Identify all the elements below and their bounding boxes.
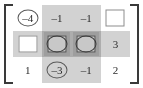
matrix-value-r1c4: 5 bbox=[111, 12, 121, 25]
matrix-cell-r1c4: 5 bbox=[101, 5, 130, 31]
matrix-cell-r2c1: 3 bbox=[13, 31, 42, 57]
matrix-cell-r2c4: 3 bbox=[101, 31, 130, 57]
matrix-cell-r1c1: –4 bbox=[13, 5, 42, 31]
matrix-value-r2c4: 3 bbox=[111, 38, 121, 51]
matrix-value-r1c1: –4 bbox=[20, 12, 35, 25]
matrix-value-r1c2: –1 bbox=[49, 12, 64, 25]
matrix-value-r2c1: 3 bbox=[23, 38, 33, 51]
matrix-value-r3c1: 1 bbox=[23, 64, 33, 77]
matrix-cell-r3c2: –3 bbox=[42, 57, 71, 83]
matrix-value-r3c2: –3 bbox=[49, 64, 64, 77]
matrix-left-bracket bbox=[4, 4, 13, 84]
matrix-cell-r2c3: 0 bbox=[72, 31, 101, 57]
matrix-value-r2c3: 0 bbox=[81, 38, 91, 51]
matrix-cell-r3c3: –1 bbox=[72, 57, 101, 83]
matrix-cell-r3c4: 2 bbox=[101, 57, 130, 83]
matrix-cell-r1c3: –1 bbox=[72, 5, 101, 31]
matrix-cell-r3c1: 1 bbox=[13, 57, 42, 83]
matrix-value-r3c4: 2 bbox=[111, 64, 121, 77]
matrix-cell-r1c2: –1 bbox=[42, 5, 71, 31]
matrix-cell-r2c2: 0 bbox=[42, 31, 71, 57]
matrix-figure: –4 –1 –1 5 3 0 0 3 bbox=[0, 0, 143, 88]
matrix-value-r1c3: –1 bbox=[79, 12, 94, 25]
matrix-value-r3c3: –1 bbox=[79, 64, 94, 77]
matrix-grid: –4 –1 –1 5 3 0 0 3 bbox=[13, 5, 130, 83]
matrix-value-r2c2: 0 bbox=[52, 38, 62, 51]
matrix-body: –4 –1 –1 5 3 0 0 3 bbox=[13, 5, 130, 83]
matrix-right-bracket bbox=[130, 4, 139, 84]
